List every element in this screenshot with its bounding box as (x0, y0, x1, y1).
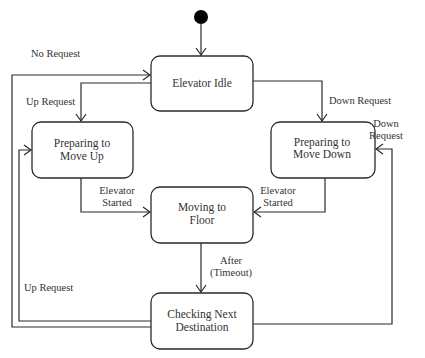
label-elevator-started-left-line-1: Elevator (99, 185, 135, 196)
state-moving-to-floor: Moving to Floor (151, 187, 253, 243)
edge-line (81, 83, 151, 121)
label-down-request-from-idle: Down Request (329, 95, 391, 106)
label-up-request-from-idle: Up Request (26, 96, 75, 107)
state-label-line-2: Move Up (60, 150, 104, 163)
state-label-line-2: Move Down (293, 148, 351, 160)
label-elevator-started-right-line-1: Elevator (260, 185, 296, 196)
label-after-timeout-line-1: After (220, 255, 243, 266)
state-label-line-1: Checking Next (167, 308, 237, 321)
state-label-line-2: Floor (190, 214, 215, 226)
label-down-request-loop-line-1: Down (373, 118, 399, 129)
transition-moving-to-checking (196, 243, 206, 292)
transition-idle-to-prep-up (76, 83, 151, 121)
label-after-timeout-line-2: (Timeout) (210, 267, 253, 279)
state-label-line-2: Destination (175, 321, 228, 333)
label-up-request-loop: Up Request (24, 282, 73, 293)
state-preparing-to-move-down: Preparing to Move Down (271, 122, 375, 178)
state-label-line-1: Moving to (178, 201, 226, 214)
state-preparing-to-move-up: Preparing to Move Up (32, 122, 133, 178)
state-elevator-idle: Elevator Idle (151, 56, 253, 111)
state-diagram: Elevator Idle Preparing to Move Up Prepa… (0, 0, 425, 358)
label-no-request: No Request (31, 48, 80, 59)
label-elevator-started-right-line-2: Started (263, 197, 293, 208)
label-elevator-started-left-line-2: Started (102, 197, 132, 208)
transition-initial-to-idle (196, 24, 206, 55)
label-down-request-loop-line-2: Request (369, 130, 403, 141)
state-label: Elevator Idle (172, 77, 232, 89)
state-label-line-1: Preparing to (54, 137, 111, 150)
transition-idle-to-prep-down (253, 81, 327, 121)
edge-line (253, 81, 322, 121)
initial-state-node (194, 10, 208, 24)
state-checking-next-destination: Checking Next Destination (151, 293, 253, 349)
